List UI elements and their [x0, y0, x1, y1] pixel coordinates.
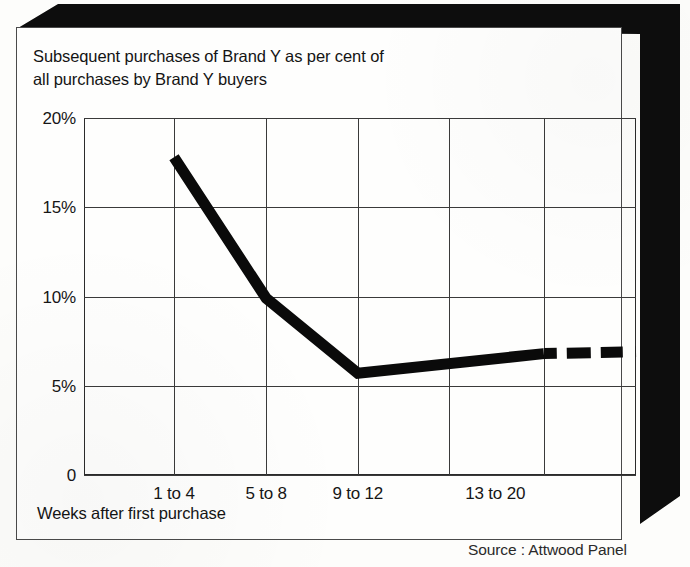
scanned-page: Subsequent purchases of Brand Y as per c…	[0, 0, 690, 567]
x-tick-label-9-to-12: 9 to 12	[332, 484, 383, 504]
data-series-layer	[84, 118, 636, 475]
y-tick-label-20: 20%	[43, 109, 76, 129]
x-tick-label-5-to-8: 5 to 8	[245, 484, 286, 504]
gridline-y-0: 0	[84, 475, 636, 476]
y-tick-label-10: 10%	[43, 288, 76, 308]
chart-title: Subsequent purchases of Brand Y as per c…	[33, 45, 593, 92]
x-tick-label-1-to-4: 1 to 4	[153, 484, 194, 504]
chart-card: Subsequent purchases of Brand Y as per c…	[16, 27, 622, 540]
x-tick-label-13-to-20: 13 to 20	[465, 484, 525, 504]
series-line-dashed-projection	[544, 352, 636, 354]
x-axis-caption: Weeks after first purchase	[37, 504, 226, 523]
chart-title-line-1: Subsequent purchases of Brand Y as per c…	[33, 45, 593, 68]
y-tick-label-5: 5%	[52, 377, 76, 397]
plot-area: 20% 15% 10% 5% 0 1 to 4 5 to 8 9 to	[84, 118, 636, 475]
y-tick-label-15: 15%	[43, 198, 76, 218]
chart-title-line-2: all purchases by Brand Y buyers	[33, 68, 593, 91]
y-tick-label-0: 0	[67, 466, 76, 486]
source-credit: Source : Attwood Panel	[468, 541, 627, 559]
series-line-solid	[174, 157, 544, 373]
